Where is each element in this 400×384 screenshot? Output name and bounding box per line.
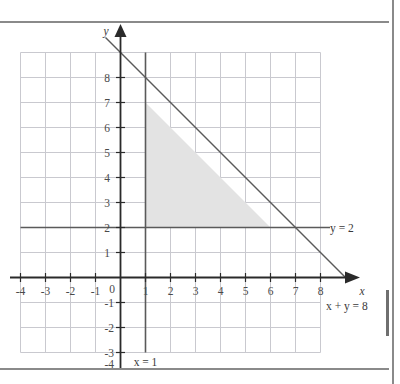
x-tick-label: -3 [41,285,51,297]
label-x-equals-1: x = 1 [134,356,158,368]
x-axis [10,272,360,284]
y-tick-label: 7 [104,97,110,109]
y-axis [115,24,127,368]
label-y-equals-2: y = 2 [330,222,354,235]
x-tick-label: -2 [66,285,76,297]
x-tick-label: 3 [193,285,199,297]
x-tick-label: 4 [218,285,224,297]
x-tick-label: 6 [268,285,274,297]
coordinate-graph-svg: -4 -3 -2 -1 1 2 3 4 5 6 7 8 0 8 7 6 5 [0,23,389,368]
graph-figure: -4 -3 -2 -1 1 2 3 4 5 6 7 8 0 8 7 6 5 [0,23,389,368]
y-tick-label: 4 [104,172,110,184]
line-x-plus-y-equals-8 [106,38,347,279]
y-tick-label: 5 [104,147,110,159]
x-tick-label: 7 [293,285,299,297]
x-tick-label: 5 [243,285,249,297]
y-tick-label: -2 [104,322,114,334]
x-tick-label: 2 [168,285,174,297]
x-tick-label: -1 [91,285,101,297]
x-tick-labels: -4 -3 -2 -1 1 2 3 4 5 6 7 8 [16,285,324,297]
label-x-plus-y-equals-8: x + y = 8 [326,300,368,313]
y-tick-labels: 8 7 6 5 4 3 2 1 -1 -2 -3 -4 [104,72,114,369]
y-tick-label: -4 [104,358,114,368]
y-axis-label: y [102,25,109,38]
page-rule-bottom [0,368,389,370]
y-tick-label: 2 [104,222,110,234]
page-rule-right [392,0,394,384]
y-tick-label: 6 [104,122,110,134]
y-tick-label: -3 [104,347,114,359]
y-tick-label: 3 [104,197,110,209]
x-tick-label: -4 [16,285,26,297]
x-tick-label: 8 [318,285,324,297]
y-tick-label: 1 [104,247,110,259]
y-tick-label: 8 [104,72,110,84]
page-canvas: -4 -3 -2 -1 1 2 3 4 5 6 7 8 0 8 7 6 5 [0,0,400,384]
y-tick-label: -1 [104,297,114,309]
origin-label: 0 [109,283,115,295]
shaded-feasible-region [146,103,271,228]
x-axis-label: x [358,285,365,297]
x-tick-label: 1 [143,285,149,297]
